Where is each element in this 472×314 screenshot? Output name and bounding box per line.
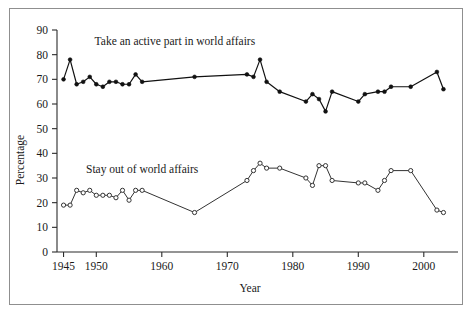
data-point-marker	[114, 80, 118, 84]
data-point-marker	[75, 82, 79, 86]
data-point-marker	[304, 176, 308, 180]
y-axis-tick-label: 30	[37, 172, 49, 184]
data-point-marker	[278, 166, 282, 170]
data-point-marker	[120, 188, 124, 192]
data-point-marker	[68, 203, 72, 207]
data-point-marker	[121, 82, 125, 86]
data-point-marker	[107, 193, 111, 197]
y-axis-tick-label: 70	[37, 73, 49, 85]
data-point-marker	[330, 178, 334, 182]
series-annotation-active: Take an active part in world affairs	[95, 35, 256, 48]
data-point-marker	[134, 73, 138, 77]
data-point-marker	[278, 90, 282, 94]
figure-container: 0102030405060708090 19451950196019701980…	[0, 0, 472, 314]
data-point-marker	[94, 193, 98, 197]
data-point-marker	[192, 210, 196, 214]
data-point-marker	[435, 70, 439, 74]
data-point-marker	[88, 188, 92, 192]
data-point-marker	[252, 75, 256, 79]
data-point-marker	[101, 193, 105, 197]
data-point-marker	[265, 166, 269, 170]
data-point-marker	[81, 80, 85, 84]
data-point-marker	[363, 92, 367, 96]
data-point-marker	[389, 85, 393, 89]
x-axis-tick-label: 1980	[281, 260, 304, 272]
data-point-marker	[382, 178, 386, 182]
data-point-marker	[127, 198, 131, 202]
data-point-marker	[140, 188, 144, 192]
data-point-marker	[389, 169, 393, 173]
data-point-marker	[108, 80, 112, 84]
data-series-group	[61, 58, 445, 215]
data-point-marker	[409, 85, 413, 89]
data-point-marker	[376, 188, 380, 192]
x-axis-tick-label: 2000	[412, 260, 435, 272]
data-point-marker	[441, 210, 445, 214]
x-axis-tick-label: 1990	[347, 260, 370, 272]
data-point-marker	[323, 164, 327, 168]
data-point-marker	[304, 100, 308, 104]
data-point-marker	[62, 77, 66, 81]
y-axis-tick-label: 50	[37, 123, 49, 135]
data-point-marker	[134, 188, 138, 192]
data-point-marker	[127, 82, 131, 86]
data-point-marker	[317, 164, 321, 168]
y-axis: 0102030405060708090	[37, 24, 58, 258]
data-point-marker	[251, 169, 255, 173]
x-axis-tick-label: 1960	[150, 260, 173, 272]
data-point-marker	[245, 178, 249, 182]
line-chart: 0102030405060708090 19451950196019701980…	[0, 0, 472, 314]
y-axis-tick-label: 40	[37, 147, 49, 159]
data-point-marker	[311, 92, 315, 96]
data-point-marker	[383, 90, 387, 94]
data-point-marker	[376, 90, 380, 94]
data-point-marker	[356, 181, 360, 185]
series-annotations: Take an active part in world affairsStay…	[86, 35, 256, 176]
x-axis-tick-label: 1945	[52, 260, 75, 272]
data-point-marker	[435, 208, 439, 212]
data-point-marker	[330, 90, 334, 94]
data-point-marker	[363, 181, 367, 185]
x-axis-title: Year	[239, 282, 260, 294]
y-axis-tick-label: 20	[37, 197, 49, 209]
data-point-marker	[356, 100, 360, 104]
data-point-marker	[88, 75, 92, 79]
data-point-marker	[265, 80, 269, 84]
x-axis: 1945195019601970198019902000	[52, 252, 458, 272]
series-annotation-stayout: Stay out of world affairs	[86, 163, 199, 176]
data-point-marker	[310, 183, 314, 187]
data-point-marker	[81, 191, 85, 195]
x-axis-tick-label: 1950	[85, 260, 108, 272]
y-axis-tick-label: 0	[42, 246, 48, 258]
data-point-marker	[258, 161, 262, 165]
x-axis-tick-label: 1970	[216, 260, 239, 272]
data-point-marker	[193, 75, 197, 79]
data-point-marker	[442, 87, 446, 91]
y-axis-tick-label: 10	[37, 221, 49, 233]
y-axis-tick-label: 80	[37, 49, 49, 61]
y-axis-tick-label: 60	[37, 98, 49, 110]
data-point-marker	[245, 73, 249, 77]
data-point-marker	[258, 58, 262, 62]
data-point-marker	[409, 169, 413, 173]
data-point-marker	[75, 188, 79, 192]
data-point-marker	[68, 58, 72, 62]
data-point-marker	[140, 80, 144, 84]
data-point-marker	[101, 85, 105, 89]
data-point-marker	[114, 196, 118, 200]
data-point-marker	[61, 203, 65, 207]
series-line-active	[64, 60, 444, 112]
data-point-marker	[317, 97, 321, 101]
y-axis-title: Percentage	[14, 135, 27, 185]
y-axis-tick-label: 90	[37, 24, 49, 36]
data-point-marker	[324, 110, 328, 114]
data-point-marker	[94, 82, 98, 86]
